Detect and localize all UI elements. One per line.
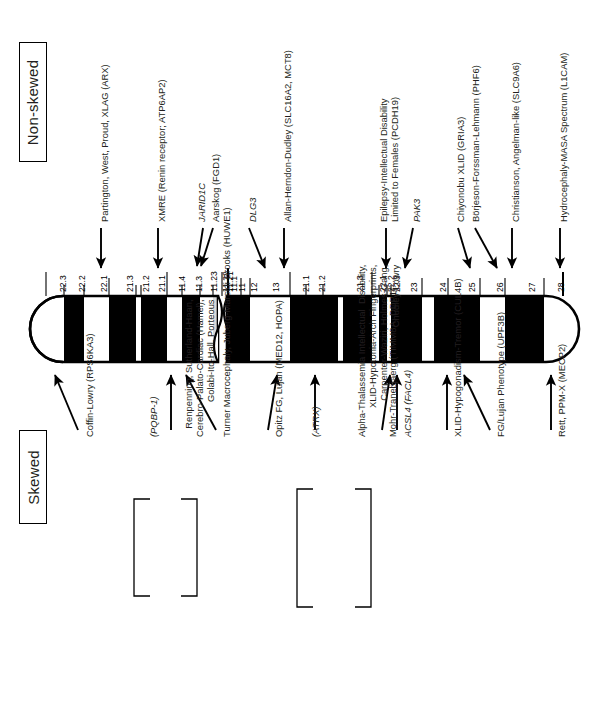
label-pcdh19: Epilepsy-Intellectual Disability Limited… [378, 97, 400, 222]
band-q-11: 11 [237, 283, 247, 292]
label-pqbp1-group: Renpenning, Sutherland-Haan, Cerebro-Pal… [183, 299, 217, 437]
label-timm8a: Mohr-Tranebjaerg (TIMM8A, DDP1) [387, 288, 398, 437]
band-q-23: 23 [409, 282, 419, 292]
band-q-27: 27 [527, 282, 537, 292]
band-p-21-1: 21.1 [157, 275, 167, 292]
label-phf6: Börjeson-Forssman-Lehmann (PHF6) [470, 65, 481, 222]
label-fgd1: Aarskog (FGD1) [210, 154, 221, 222]
label-dlg3: DLG3 [247, 198, 258, 223]
band-p-11-3: 11.3 [194, 276, 204, 292]
band-p-11-4: 11.4 [177, 276, 187, 292]
label-atrx: (ATRX) [310, 406, 321, 437]
label-huwe1: Turner Macrocephaly, Juberg-Marsidi-Broo… [221, 207, 232, 437]
band-p-22-2: 22.2 [77, 275, 87, 292]
band-q-21-2: 21.2 [317, 275, 327, 292]
label-atp6ap2: XMRE (Renin receptor; ATP6AP2) [156, 79, 167, 222]
band-q-21-1: 21.1 [301, 275, 311, 292]
band-q-13: 13 [271, 282, 281, 292]
label-slc16a2: Allan-Herndon-Dudley (SLC16A2, MCT8) [282, 50, 293, 222]
nonskewed-arrows [101, 228, 560, 268]
label-upf3b: FG/Lujan Phenotype (UPF3B) [495, 312, 506, 437]
skewed-arrows [55, 375, 551, 430]
band-p-22-1: 22.1 [99, 275, 109, 292]
label-pak3: PAK3 [411, 199, 422, 222]
label-rps6ka3: Coffin-Lowry (RPS6KA3) [84, 333, 95, 437]
label-l1cam: Hydrocephaly-MASA Spectrum (L1CAM) [558, 53, 569, 222]
band-q-25: 25 [467, 282, 477, 292]
band-p-22-3: 22.3 [58, 275, 68, 292]
label-cul4b: XLID-Hypogonadism-Tremor (CUL4B) [452, 278, 463, 437]
figure-canvas: Non-skewed Skewed [0, 0, 596, 702]
label-jarid1c: JARID1C [196, 183, 207, 222]
label-pqbp1: (PQBP-1) [148, 396, 159, 437]
band-q-24: 24 [438, 282, 448, 292]
label-arx: Partington, West, Proud, XLAG (ARX) [99, 64, 110, 222]
band-q-26: 26 [495, 282, 505, 292]
band-q-12: 12 [249, 282, 259, 292]
label-acsl4: ACSL4 (FACL4) [402, 370, 413, 437]
label-slc9a6: Christianson, Angelman-like (SLC9A6) [510, 62, 521, 222]
band-p-21-2: 21.2 [141, 275, 151, 292]
label-gria3: Chiyonobu XLID (GRIA3) [455, 117, 466, 222]
label-med12: Opitz FG, Lujan (MED12, HOPA) [273, 300, 284, 437]
band-p-21-3: 21.3 [125, 275, 135, 292]
band-q-28: 28 [556, 282, 566, 292]
label-mecp2: Rett, PPM-X (MECP2) [556, 344, 567, 437]
band-p-11-23: 11.23 [209, 271, 219, 292]
